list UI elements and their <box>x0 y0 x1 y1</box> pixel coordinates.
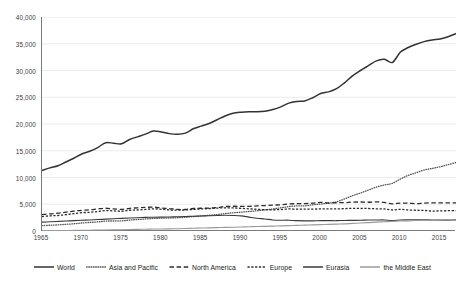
legend-item[interactable]: World <box>34 263 75 271</box>
x-axis-tick-labels: 1965197019751980198519901995200020052010… <box>41 234 455 248</box>
legend-item[interactable]: North America <box>169 263 236 271</box>
y-tick-label: 5,000 <box>0 201 36 208</box>
series-line <box>42 202 456 215</box>
line-chart: 05,00010,00015,00020,00025,00030,00035,0… <box>0 0 465 281</box>
chart-legend: WorldAsia and PacificNorth AmericaEurope… <box>0 256 465 278</box>
y-tick-label: 0 <box>0 228 36 235</box>
legend-label: Europe <box>270 264 292 271</box>
legend-item[interactable]: Asia and Pacific <box>86 263 158 271</box>
x-tick-label: 2000 <box>312 234 327 241</box>
legend-label: World <box>57 264 75 271</box>
x-tick-label: 1980 <box>153 234 168 241</box>
x-tick-label: 1975 <box>113 234 128 241</box>
y-tick-label: 30,000 <box>0 67 36 74</box>
x-tick-label: 1990 <box>233 234 248 241</box>
x-tick-label: 2015 <box>432 234 447 241</box>
legend-item[interactable]: the Middle East <box>360 263 431 271</box>
legend-swatch-icon <box>360 263 380 271</box>
legend-item[interactable]: Europe <box>247 263 292 271</box>
y-tick-label: 35,000 <box>0 40 36 47</box>
plot-svg <box>42 17 456 231</box>
x-tick-label: 1965 <box>34 234 49 241</box>
x-tick-label: 1985 <box>193 234 208 241</box>
legend-label: Asia and Pacific <box>109 264 158 271</box>
y-tick-label: 25,000 <box>0 94 36 101</box>
x-tick-label: 2005 <box>352 234 367 241</box>
y-tick-label: 20,000 <box>0 121 36 128</box>
series-line <box>42 163 456 226</box>
gridlines <box>42 17 456 204</box>
y-tick-label: 10,000 <box>0 174 36 181</box>
y-tick-label: 15,000 <box>0 147 36 154</box>
legend-swatch-icon <box>169 263 189 271</box>
legend-swatch-icon <box>303 263 323 271</box>
y-tick-label: 40,000 <box>0 14 36 21</box>
legend-label: Eurasia <box>326 264 349 271</box>
legend-swatch-icon <box>86 263 106 271</box>
legend-item[interactable]: Eurasia <box>303 263 349 271</box>
series-line <box>42 34 456 171</box>
plot-area <box>41 17 455 231</box>
y-axis-tick-labels: 05,00010,00015,00020,00025,00030,00035,0… <box>0 0 38 281</box>
x-tick-label: 1995 <box>273 234 288 241</box>
series-line <box>42 208 456 217</box>
legend-swatch-icon <box>34 263 54 271</box>
x-tick-label: 1970 <box>73 234 88 241</box>
x-tick-label: 2010 <box>392 234 407 241</box>
legend-label: North America <box>192 264 236 271</box>
legend-label: the Middle East <box>383 264 431 271</box>
legend-swatch-icon <box>247 263 267 271</box>
series-layer <box>42 34 456 231</box>
